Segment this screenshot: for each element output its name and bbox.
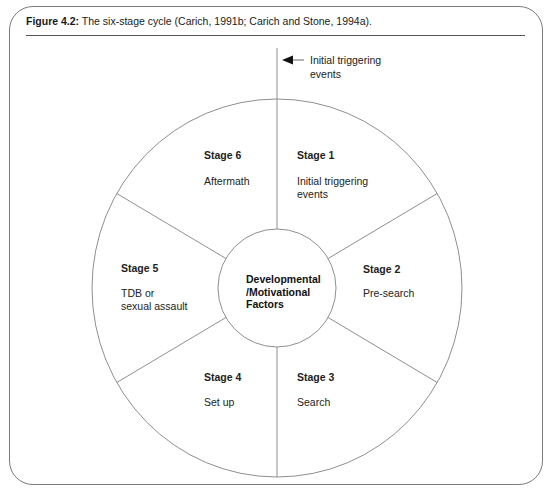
stage-5-line-2: sexual assault <box>121 300 188 313</box>
center-label: Developmental /Motivational Factors <box>246 273 321 311</box>
stage-3-title: Stage 3 <box>297 371 334 384</box>
stage-1-line-1: Initial triggering <box>297 175 368 188</box>
stage-6-title: Stage 6 <box>204 149 241 162</box>
stage-3-line-1: Search <box>297 396 330 409</box>
trigger-label: Initial triggering events <box>310 53 381 81</box>
center-line-1: Developmental <box>246 273 321 286</box>
stage-2-line-1: Pre-search <box>363 287 414 300</box>
stage-1-title: Stage 1 <box>297 149 334 162</box>
arrow-left-icon <box>282 56 304 65</box>
stage-4-line-1: Set up <box>204 396 234 409</box>
spoke-lower-right <box>328 318 437 383</box>
six-stage-cycle-diagram <box>0 0 552 498</box>
stage-1-line-2: events <box>297 188 328 201</box>
stage-5-line-1: TDB or <box>121 287 154 300</box>
center-line-3: Factors <box>246 298 321 311</box>
stage-4-title: Stage 4 <box>204 371 241 384</box>
stage-2-title: Stage 2 <box>363 263 400 276</box>
spoke-upper-right <box>328 194 437 259</box>
center-line-2: /Motivational <box>246 286 321 299</box>
spoke-upper-left <box>117 194 226 259</box>
stage-5-title: Stage 5 <box>121 262 158 275</box>
trigger-line-2: events <box>310 67 381 81</box>
stage-6-line-1: Aftermath <box>204 175 250 188</box>
trigger-line-1: Initial triggering <box>310 53 381 67</box>
